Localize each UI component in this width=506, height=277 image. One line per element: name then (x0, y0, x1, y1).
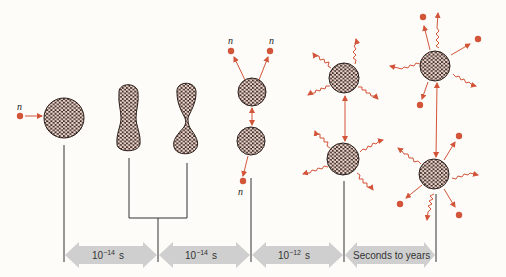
gamma-ray-icon (398, 148, 421, 164)
stage-4-scission: n n n (228, 35, 274, 197)
gamma-ray-icon (353, 39, 357, 64)
necked-nucleus (174, 83, 198, 154)
neutron-icon (17, 113, 23, 119)
particle-arrow-icon (422, 82, 428, 99)
stage-2-3-bracket (129, 158, 187, 218)
particle-icon (456, 133, 462, 139)
gamma-ray-icon (436, 13, 439, 48)
neutron-arrow-icon (234, 57, 245, 80)
gamma-ray-icon (427, 194, 434, 220)
fission-diagram: n n n n (0, 0, 506, 277)
elongated-nucleus (117, 85, 140, 151)
separation-arrow-icon (436, 83, 437, 157)
neutron-label: n (228, 35, 233, 46)
stage-5-gamma-emission (303, 39, 383, 190)
stage-3-necked-nucleus (174, 83, 198, 154)
fragment-upper (420, 51, 450, 81)
timeline: 10−14s 10−14s 10−12s Seconds to years (65, 242, 435, 268)
particle-icon (456, 212, 462, 218)
particle-arrow-icon (406, 185, 422, 198)
stage-2-elongated-nucleus (117, 85, 140, 151)
neutron-arrow-icon (243, 156, 248, 176)
particle-arrow-icon (424, 26, 430, 50)
fission-fragment-lower (237, 127, 265, 155)
stage-6-beta-decay (390, 13, 481, 220)
neutron-label: n (238, 186, 243, 197)
particle-arrow-icon (451, 44, 470, 55)
neutron-arrow-icon (259, 57, 268, 80)
neutron-icon (267, 48, 273, 54)
neutron-icon (228, 48, 234, 54)
neutron-icon (240, 178, 246, 184)
fragment-upper (329, 63, 359, 93)
timeline-connectors (64, 145, 436, 262)
neutron-label: n (17, 101, 22, 112)
gamma-ray-icon (358, 87, 378, 99)
gamma-ray-icon (313, 53, 331, 68)
neutron-label: n (269, 35, 274, 46)
gamma-ray-icon (360, 140, 383, 152)
gamma-ray-icon (308, 86, 330, 95)
gamma-ray-icon (315, 131, 330, 148)
particle-icon (397, 201, 403, 207)
gamma-ray-icon (303, 166, 328, 174)
fragment-lower (327, 143, 359, 175)
stage-1-incoming-neutron: n (17, 98, 84, 138)
fragment-lower (419, 159, 449, 189)
gamma-ray-icon (390, 63, 420, 69)
particle-icon (420, 14, 426, 20)
gamma-ray-icon (452, 173, 478, 179)
particle-icon (417, 102, 423, 108)
particle-icon (475, 36, 481, 42)
fission-fragment-upper (238, 78, 266, 106)
nucleus-sphere (44, 98, 84, 138)
gamma-ray-icon (453, 74, 476, 86)
particle-arrow-icon (444, 142, 455, 160)
particle-arrow-icon (444, 189, 455, 207)
gamma-ray-icon (357, 173, 373, 190)
timeline-label-4: Seconds to years (353, 250, 430, 261)
